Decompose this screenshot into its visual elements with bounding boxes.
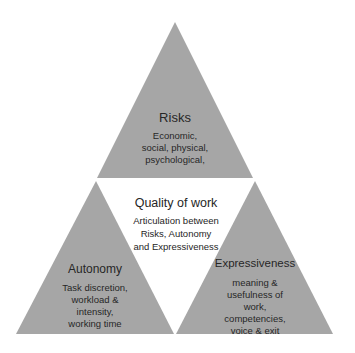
center-line: Risks, Autonomy [133,227,219,240]
quality-of-work-label: Quality of work Articulation between Ris… [133,196,219,253]
center-line: Articulation between [133,214,219,227]
expressiveness-line: competencies, [215,313,296,325]
expressiveness-description: meaning & usefulness of work, competenci… [215,277,296,337]
autonomy-label: Autonomy Task discretion, workload & int… [62,262,127,330]
quality-of-work-description: Articulation between Risks, Autonomy and… [133,214,219,253]
autonomy-line: intensity, [62,306,127,318]
center-line: and Expressiveness [133,240,219,253]
risks-line: social, physical, [142,142,209,154]
risks-description: Economic, social, physical, psychologica… [142,130,209,166]
risks-line: psychological, [142,154,209,166]
autonomy-description: Task discretion, workload & intensity, w… [62,282,127,330]
risks-title: Risks [142,110,209,125]
autonomy-line: working time [62,318,127,330]
autonomy-title: Autonomy [62,262,127,277]
expressiveness-line: voice & exit [215,325,296,337]
autonomy-line: workload & [62,294,127,306]
expressiveness-title: Expressiveness [215,256,296,271]
triangle-shapes [0,0,355,353]
expressiveness-line: usefulness of [215,289,296,301]
risks-label: Risks Economic, social, physical, psycho… [142,110,209,166]
autonomy-line: Task discretion, [62,282,127,294]
expressiveness-label: Expressiveness meaning & usefulness of w… [215,256,296,337]
expressiveness-line: meaning & [215,277,296,289]
quality-of-work-title: Quality of work [133,196,219,211]
risks-line: Economic, [142,130,209,142]
expressiveness-line: work, [215,301,296,313]
